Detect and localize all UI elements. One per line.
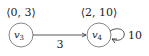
edge-v4-self-loop: 10 xyxy=(110,29,142,42)
node-v3-annotation: ⟨0, 3⟩ xyxy=(6,6,36,19)
edge-v3-v4: 3 xyxy=(33,35,86,51)
node-v3: ⟨0, 3⟩ v3 xyxy=(6,6,36,47)
edge-v3-v4-weight: 3 xyxy=(57,38,64,51)
node-v4-annotation: ⟨2, 10⟩ xyxy=(81,6,118,19)
graph-diagram: ⟨0, 3⟩ v3 3 ⟨2, 10⟩ v4 10 xyxy=(0,0,149,56)
node-v4: ⟨2, 10⟩ v4 xyxy=(81,6,118,47)
edge-v4-self-loop-weight: 10 xyxy=(128,29,142,42)
